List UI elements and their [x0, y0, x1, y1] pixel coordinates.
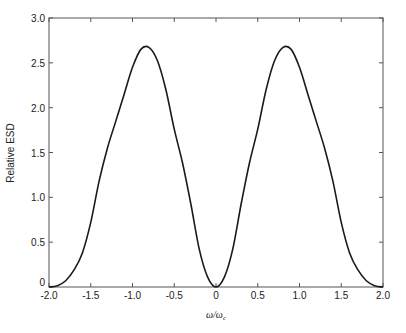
x-tick-label: 2.0	[376, 290, 390, 301]
plot-area	[49, 18, 383, 287]
y-axis-label: Relative ESD	[5, 123, 16, 182]
x-axis-label: ω/ωc	[206, 309, 227, 322]
x-tick-label: -1.5	[82, 290, 100, 301]
y-tick-label: 1.0	[31, 192, 45, 203]
x-tick-label: 1.5	[334, 290, 348, 301]
axis-ticks: -2.0-1.5-1.0-0.500.51.01.52.000.51.01.52…	[31, 13, 390, 301]
x-tick-label: 0.5	[251, 290, 265, 301]
y-tick-label: 0.5	[31, 237, 45, 248]
x-tick-label: 0	[213, 290, 219, 301]
y-tick-label: 2.0	[31, 103, 45, 114]
x-tick-label: 1.0	[293, 290, 307, 301]
y-tick-label: 3.0	[31, 13, 45, 24]
plot-frame	[49, 18, 383, 287]
y-tick-label: 2.5	[31, 58, 45, 69]
x-tick-label: -2.0	[40, 290, 58, 301]
esd-line-chart: -2.0-1.5-1.0-0.500.51.01.52.000.51.01.52…	[0, 0, 406, 333]
y-tick-label: 1.5	[31, 148, 45, 159]
x-tick-label: -0.5	[166, 290, 184, 301]
x-tick-label: -1.0	[124, 290, 142, 301]
y-tick-label: 0	[39, 277, 45, 288]
esd-curve	[49, 46, 383, 287]
